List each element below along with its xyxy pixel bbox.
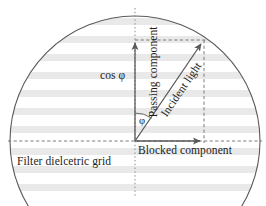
grid-stripe (0, 126, 266, 133)
grid-stripe (0, 36, 266, 43)
optics-diagram-svg (0, 0, 266, 206)
grid-stripe (0, 184, 266, 191)
grid-stripe (0, 90, 266, 97)
label-cos-phi: cos φ (100, 70, 125, 82)
grid-stripe (0, 18, 266, 25)
label-phi-angle: φ (139, 116, 145, 127)
diagram-canvas: cos φ Passing component Incident light B… (0, 0, 266, 206)
label-filter-dielectric-grid: Filter dielcetric grid (17, 156, 111, 168)
label-blocked-component: Blocked component (138, 145, 232, 157)
grid-stripe (0, 108, 266, 115)
grid-stripe (0, 72, 266, 79)
label-passing-component: Passing component (148, 26, 160, 117)
